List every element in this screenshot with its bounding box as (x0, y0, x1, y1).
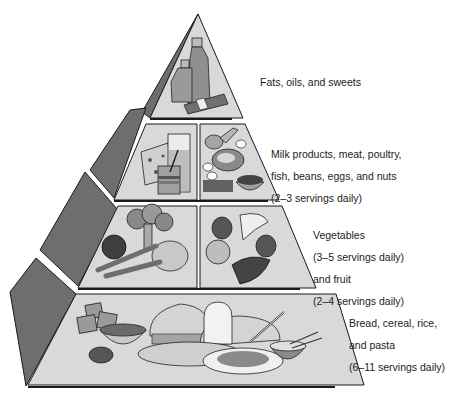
tomato-icon (102, 235, 126, 259)
label-line: (3–5 servings daily) (313, 252, 404, 263)
label-milk-meat: Milk products, meat, poultry, fish, bean… (271, 138, 402, 215)
label-line: Fats, oils, and sweets (260, 77, 361, 88)
label-vegetables-fruit: Vegetables (3–5 servings daily) and frui… (313, 219, 404, 318)
label-line: (6–11 servings daily) (349, 362, 445, 373)
label-line: Vegetables (313, 230, 404, 241)
label-line: (2–4 servings daily) (313, 296, 404, 307)
roll-icon (89, 347, 113, 363)
label-line: fish, beans, eggs, and nuts (271, 171, 402, 182)
label-fats-oils-sweets: Fats, oils, and sweets (260, 66, 361, 99)
bread-slice-icon (204, 302, 232, 344)
label-line: (2–3 servings daily) (271, 193, 402, 204)
tier-fats-face (150, 14, 243, 119)
label-line: and pasta (349, 340, 445, 351)
label-grains: Bread, cereal, rice, and pasta (6–11 ser… (349, 307, 445, 384)
tier-milk-meat-face (114, 124, 279, 201)
orange-icon (206, 240, 230, 264)
steak-icon (212, 149, 244, 171)
tier-vegetables-fruit-face (78, 204, 316, 289)
spaghetti-plate-icon (203, 348, 283, 374)
label-line: Bread, cereal, rice, (349, 318, 445, 329)
beans-icon (203, 180, 233, 192)
label-line: Milk products, meat, poultry, (271, 149, 402, 160)
label-line: and fruit (313, 274, 404, 285)
